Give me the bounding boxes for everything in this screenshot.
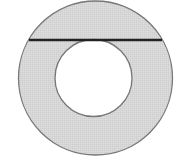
annulus-diagram — [0, 0, 179, 165]
inner-circle — [55, 40, 132, 117]
